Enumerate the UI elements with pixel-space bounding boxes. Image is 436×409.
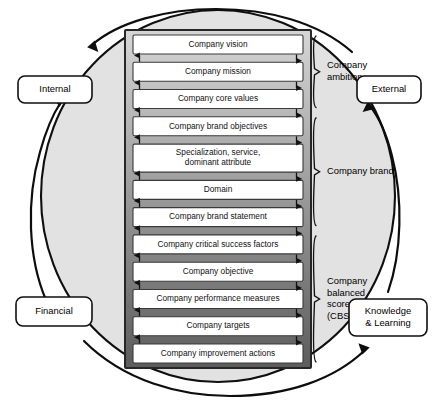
group-brace-label: Company brand <box>327 165 394 176</box>
stack-box-label: dominant attribute <box>185 157 252 167</box>
group-brace-label: balanced <box>327 287 365 298</box>
stack-box-label: Company vision <box>188 39 247 49</box>
perspective-label: & Learning <box>365 317 410 328</box>
stack-box-domain[interactable]: Domain <box>133 180 303 199</box>
stack-box-label: Company core values <box>178 93 258 103</box>
stack-box-label: Company mission <box>185 66 251 76</box>
stack-box-company-vision[interactable]: Company vision <box>133 35 303 54</box>
group-brace-label: Company <box>327 59 367 70</box>
stack-box-company-objective[interactable]: Company objective <box>133 262 303 281</box>
perspective-label: External <box>372 83 406 94</box>
stack-box-company-core-values[interactable]: Company core values <box>133 90 303 109</box>
group-brace-label: Company <box>327 275 367 286</box>
stack-box-label: Domain <box>204 184 233 194</box>
stack-box-company-brand-objectives[interactable]: Company brand objectives <box>133 117 303 136</box>
stack-box-label: Specialization, service, <box>176 147 260 157</box>
stack-box-company-targets[interactable]: Company targets <box>133 317 303 336</box>
stack-box-company-brand-statement[interactable]: Company brand statement <box>133 208 303 227</box>
stack-box-label: Company performance measures <box>156 293 279 303</box>
perspective-label: Internal <box>39 83 70 94</box>
stack-box-company-mission[interactable]: Company mission <box>133 62 303 81</box>
company-framework-diagram: Company visionCompany missionCompany cor… <box>0 0 436 409</box>
stack-box-label: Company critical success factors <box>158 239 279 249</box>
stack-box-label: Company targets <box>186 320 249 330</box>
perspective-label: Knowledge <box>365 305 411 316</box>
stack-box-company-improvement-actions[interactable]: Company improvement actions <box>133 344 303 363</box>
figure-canvas: Company visionCompany missionCompany cor… <box>0 0 436 409</box>
stack-box-label: Company brand statement <box>169 211 267 221</box>
stack-box-specialization-service-dominant-attribute[interactable]: Specialization, service,dominant attribu… <box>133 144 303 172</box>
stack-box-company-critical-success-factors[interactable]: Company critical success factors <box>133 235 303 254</box>
stack-box-label: Company objective <box>183 266 254 276</box>
stack-box-label: Company improvement actions <box>161 348 275 358</box>
perspective-knowledge-learning[interactable]: Knowledge& Learning <box>349 299 427 336</box>
perspective-internal[interactable]: Internal <box>18 76 92 103</box>
perspective-label: Financial <box>35 305 73 316</box>
perspective-financial[interactable]: Financial <box>16 297 92 326</box>
stack-box-company-performance-measures[interactable]: Company performance measures <box>133 289 303 308</box>
stack-box-label: Company brand objectives <box>169 121 267 131</box>
perspective-external[interactable]: External <box>357 76 421 103</box>
